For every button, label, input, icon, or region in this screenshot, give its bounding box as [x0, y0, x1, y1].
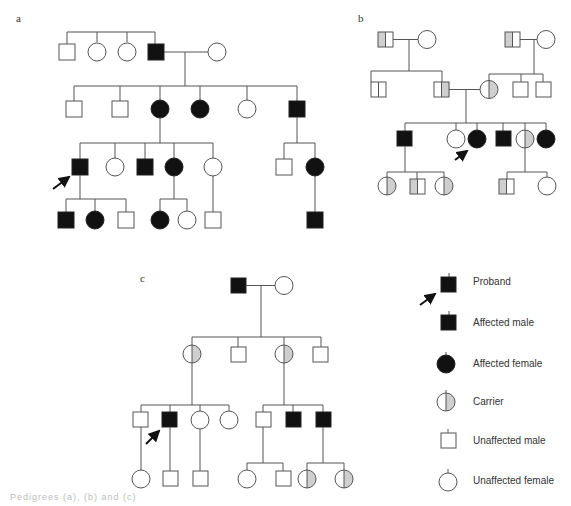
legend-item-unaffected-female: Unaffected female: [439, 469, 554, 491]
legend-item-affected-female: Affected female: [437, 352, 543, 373]
b-III-2-unaffected-female: [447, 130, 465, 148]
b-III-3-proband-affected-female: [468, 130, 486, 148]
pedigree-a: a: [16, 12, 324, 229]
b-III-6-affected-female: [537, 130, 555, 148]
b-IV-5-unaffected-female: [538, 177, 556, 195]
legend: Proband Affected male Affected female Ca…: [420, 273, 554, 491]
proband-arrow-icon: [53, 177, 69, 189]
a-IV-5-unaffected-female: [178, 211, 196, 229]
c-III-6-affected-male: [286, 412, 301, 427]
c-III-5-unaffected-male: [256, 412, 271, 427]
legend-item-unaffected-male: Unaffected male: [441, 429, 546, 448]
panel-label-c: c: [140, 272, 145, 284]
a-IV-1-affected-male: [58, 212, 74, 228]
c-III-1-unaffected-male: [133, 412, 148, 427]
unaffected-male-symbol-icon: [441, 433, 456, 448]
panel-label-b: b: [358, 12, 364, 24]
a-II-4-affected-female: [191, 100, 209, 118]
a-III-7-affected-female: [306, 158, 324, 176]
c-IV-2-unaffected-male: [163, 471, 178, 486]
legend-item-affected-male: Affected male: [441, 311, 534, 330]
legend-label: Carrier: [473, 396, 504, 407]
a-III-2-unaffected-female: [106, 158, 124, 176]
legend-label: Unaffected male: [473, 435, 546, 446]
a-III-1-proband-affected-male: [72, 159, 88, 175]
legend-label: Affected female: [473, 358, 543, 369]
b-III-1-affected-male: [397, 131, 412, 146]
affected-female-symbol-icon: [437, 355, 455, 373]
a-II-1-unaffected-male: [66, 101, 82, 117]
legend-label: Proband: [473, 276, 511, 287]
a-I-4-affected-male: [148, 44, 164, 60]
a-IV-3-unaffected-male: [118, 212, 134, 228]
legend-item-proband: Proband: [420, 273, 511, 305]
unaffected-female-symbol-icon: [439, 473, 457, 491]
a-IV-6-unaffected-male: [205, 212, 221, 228]
b-I-4-unaffected-female: [537, 31, 555, 49]
a-II-6-affected-male: [289, 101, 305, 117]
a-III-3-affected-male: [137, 159, 153, 175]
pedigree-figure: a: [0, 0, 571, 506]
c-I-1-affected-male: [231, 278, 246, 293]
a-I-1-unaffected-male: [59, 44, 75, 60]
a-I-3-unaffected-female: [118, 43, 136, 61]
figure-caption: Pedigrees (a), (b) and (c): [10, 492, 137, 502]
c-IV-5-unaffected-male: [276, 471, 291, 486]
c-II-4-unaffected-male: [313, 347, 328, 362]
c-IV-4-unaffected-female: [238, 470, 256, 488]
c-II-2-unaffected-male: [231, 347, 246, 362]
c-III-7-affected-male: [316, 412, 331, 427]
c-III-4-unaffected-female: [220, 411, 238, 429]
c-III-3-unaffected-female: [191, 411, 209, 429]
c-IV-3-unaffected-male: [193, 471, 208, 486]
proband-symbol-icon: [441, 277, 456, 292]
b-II-4-unaffected-male: [513, 82, 528, 97]
panel-label-a: a: [16, 12, 21, 24]
b-II-5-unaffected-male: [536, 82, 551, 97]
legend-label: Unaffected female: [473, 475, 554, 486]
c-III-2-proband-affected-male: [162, 412, 177, 427]
proband-arrow-icon: [146, 431, 159, 444]
c-I-2-unaffected-female: [275, 277, 293, 295]
a-III-4-affected-female: [165, 158, 183, 176]
pedigree-c: c: [132, 272, 353, 488]
a-IV-4-affected-female: [151, 211, 169, 229]
legend-label: Affected male: [473, 317, 534, 328]
a-I-5-unaffected-female: [208, 43, 226, 61]
a-II-5-unaffected-female: [238, 100, 256, 118]
b-III-4-affected-male: [496, 131, 511, 146]
a-II-2-unaffected-male: [112, 101, 128, 117]
a-IV-2-affected-female: [86, 211, 104, 229]
proband-arrow-icon: [420, 294, 435, 305]
affected-male-symbol-icon: [441, 315, 456, 330]
c-IV-1-unaffected-female: [132, 470, 150, 488]
pedigree-b: b: [358, 12, 556, 195]
b-I-2-unaffected-female: [418, 31, 436, 49]
a-IV-7-affected-male: [307, 212, 323, 228]
legend-item-carrier: Carrier: [437, 390, 504, 411]
a-II-3-affected-female: [151, 100, 169, 118]
a-III-6-unaffected-male: [276, 159, 292, 175]
a-III-5-unaffected-female: [204, 158, 222, 176]
proband-arrow-icon: [455, 151, 467, 160]
a-I-2-unaffected-female: [88, 43, 106, 61]
